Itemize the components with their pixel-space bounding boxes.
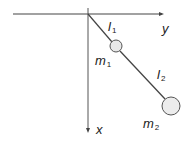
- double-pendulum-diagram: l1 y m1 l2 m2 x: [0, 0, 186, 141]
- x-axis-label: x: [96, 123, 103, 136]
- mass-2-bob: [162, 97, 180, 115]
- mass-1-bob: [110, 40, 122, 52]
- x-axis-arrow-icon: [86, 128, 90, 133]
- rod-2-label: l2: [157, 68, 165, 83]
- rod-1-label: l1: [108, 20, 116, 35]
- mass-2-label: m2: [143, 117, 159, 132]
- y-axis-arrow-icon: [159, 12, 164, 16]
- mass-1-label: m1: [95, 54, 111, 69]
- y-axis-label: y: [162, 22, 169, 35]
